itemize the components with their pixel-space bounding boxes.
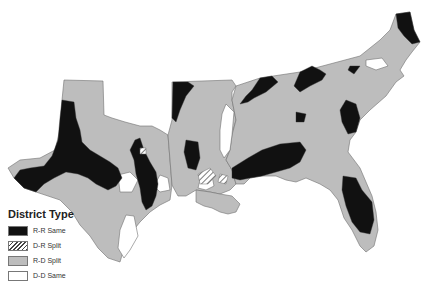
legend-label: R-D Split — [33, 257, 61, 264]
legend-label: D-R Split — [33, 242, 61, 249]
legend-title: District Type — [8, 208, 128, 220]
legend-label: R-R Same — [33, 227, 66, 234]
region-southeast — [226, 12, 420, 252]
swatch-dd-same — [8, 271, 28, 281]
swatch-rd-split — [8, 256, 28, 266]
legend-item-rd-split: R-D Split — [8, 254, 128, 267]
legend-item-rr-same: R-R Same — [8, 224, 128, 237]
legend-label: D-D Same — [33, 272, 66, 279]
legend: District Type R-R Same D-R Split R-D Spl… — [8, 208, 128, 284]
legend-item-dd-same: D-D Same — [8, 269, 128, 282]
swatch-dr-split — [8, 241, 28, 251]
legend-item-dr-split: D-R Split — [8, 239, 128, 252]
swatch-rr-same — [8, 226, 28, 236]
region-louisiana-delta — [196, 190, 240, 214]
